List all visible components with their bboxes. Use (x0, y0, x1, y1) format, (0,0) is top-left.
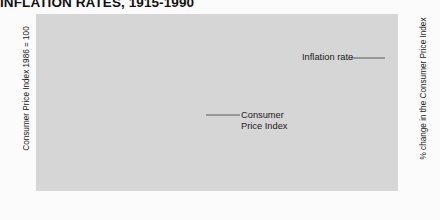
annotation-inflation-rate-label: Inflation rate (302, 52, 353, 62)
annotation-cpi-line-1: Consumer (241, 110, 288, 121)
annotation-inflation-rate: Inflation rate (302, 52, 353, 63)
series-svg (36, 14, 398, 191)
plot-area (36, 14, 398, 191)
page-title: INFLATION RATES, 1915-1990 (0, 0, 194, 10)
annotation-cpi-line-2: Price Index (241, 121, 288, 132)
annotation-consumer-price-index: Consumer Price Index (241, 110, 288, 131)
left-axis-title: Consumer Price Index 1986 = 100 (22, 14, 31, 164)
inflation-rates-chart: INFLATION RATES, 1915-1990 Consumer Pric… (0, 0, 440, 220)
right-axis-title: % change in the Consumer Price Index (419, 14, 428, 164)
